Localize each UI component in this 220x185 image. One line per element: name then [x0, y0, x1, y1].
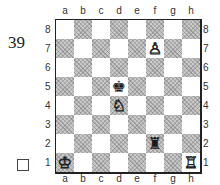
square-c7[interactable]: [92, 39, 110, 58]
chess-board: ♙♚♘♜♔♖: [55, 19, 202, 174]
square-f1[interactable]: [146, 153, 164, 172]
solved-checkbox[interactable]: [17, 159, 29, 171]
file-label-a: a: [56, 173, 74, 184]
square-d3[interactable]: [110, 115, 128, 134]
square-c4[interactable]: [92, 96, 110, 115]
square-f7[interactable]: ♙: [146, 39, 164, 58]
square-c6[interactable]: [92, 58, 110, 77]
rank-label-2: 2: [45, 134, 51, 153]
square-g3[interactable]: [164, 115, 182, 134]
rank-label-6: 6: [45, 58, 51, 77]
file-label-f: f: [146, 173, 164, 184]
file-label-g: g: [164, 173, 182, 184]
square-h6[interactable]: [182, 58, 200, 77]
file-label-h: h: [182, 173, 200, 184]
square-e8[interactable]: [128, 20, 146, 39]
square-h4[interactable]: [182, 96, 200, 115]
square-b8[interactable]: [74, 20, 92, 39]
square-h5[interactable]: [182, 77, 200, 96]
square-h1[interactable]: ♖: [182, 153, 200, 172]
square-d7[interactable]: [110, 39, 128, 58]
square-c5[interactable]: [92, 77, 110, 96]
rank-label-4: 4: [45, 96, 51, 115]
file-label-f: f: [146, 5, 164, 16]
square-d4[interactable]: ♘: [110, 96, 128, 115]
square-h7[interactable]: [182, 39, 200, 58]
square-f3[interactable]: [146, 115, 164, 134]
square-f8[interactable]: [146, 20, 164, 39]
rank-label-1: 1: [203, 153, 209, 172]
square-a3[interactable]: [56, 115, 74, 134]
rank-label-3: 3: [203, 115, 209, 134]
square-a1[interactable]: ♔: [56, 153, 74, 172]
square-a5[interactable]: [56, 77, 74, 96]
puzzle-number: 39: [8, 33, 25, 53]
file-label-a: a: [56, 5, 74, 16]
rank-label-1: 1: [45, 153, 51, 172]
rank-label-7: 7: [203, 39, 209, 58]
square-h2[interactable]: [182, 134, 200, 153]
square-a7[interactable]: [56, 39, 74, 58]
square-e4[interactable]: [128, 96, 146, 115]
white-knight-icon[interactable]: ♘: [112, 98, 126, 114]
white-rook-icon[interactable]: ♖: [184, 155, 198, 171]
rank-label-4: 4: [203, 96, 209, 115]
rank-label-3: 3: [45, 115, 51, 134]
file-label-d: d: [110, 5, 128, 16]
square-e5[interactable]: [128, 77, 146, 96]
square-f4[interactable]: [146, 96, 164, 115]
square-f6[interactable]: [146, 58, 164, 77]
square-f5[interactable]: [146, 77, 164, 96]
square-b7[interactable]: [74, 39, 92, 58]
square-a2[interactable]: [56, 134, 74, 153]
square-e7[interactable]: [128, 39, 146, 58]
rank-label-7: 7: [45, 39, 51, 58]
file-label-b: b: [74, 173, 92, 184]
square-g5[interactable]: [164, 77, 182, 96]
white-king-icon[interactable]: ♔: [58, 155, 72, 171]
black-rook-icon[interactable]: ♜: [148, 136, 162, 152]
square-g8[interactable]: [164, 20, 182, 39]
file-label-c: c: [92, 5, 110, 16]
square-h8[interactable]: [182, 20, 200, 39]
black-king-icon[interactable]: ♚: [112, 79, 126, 95]
square-g4[interactable]: [164, 96, 182, 115]
square-g2[interactable]: [164, 134, 182, 153]
square-c2[interactable]: [92, 134, 110, 153]
square-b5[interactable]: [74, 77, 92, 96]
square-g1[interactable]: [164, 153, 182, 172]
square-d6[interactable]: [110, 58, 128, 77]
square-e2[interactable]: [128, 134, 146, 153]
square-b2[interactable]: [74, 134, 92, 153]
square-g6[interactable]: [164, 58, 182, 77]
square-c1[interactable]: [92, 153, 110, 172]
square-d2[interactable]: [110, 134, 128, 153]
file-label-g: g: [164, 5, 182, 16]
file-label-b: b: [74, 5, 92, 16]
rank-label-5: 5: [45, 77, 51, 96]
square-e3[interactable]: [128, 115, 146, 134]
square-c3[interactable]: [92, 115, 110, 134]
square-b6[interactable]: [74, 58, 92, 77]
square-c8[interactable]: [92, 20, 110, 39]
square-a4[interactable]: [56, 96, 74, 115]
square-e6[interactable]: [128, 58, 146, 77]
square-b4[interactable]: [74, 96, 92, 115]
square-a6[interactable]: [56, 58, 74, 77]
square-e1[interactable]: [128, 153, 146, 172]
rank-label-6: 6: [203, 58, 209, 77]
square-b1[interactable]: [74, 153, 92, 172]
rank-label-2: 2: [203, 134, 209, 153]
square-h3[interactable]: [182, 115, 200, 134]
file-label-h: h: [182, 5, 200, 16]
square-g7[interactable]: [164, 39, 182, 58]
square-d5[interactable]: ♚: [110, 77, 128, 96]
file-label-e: e: [128, 5, 146, 16]
square-f2[interactable]: ♜: [146, 134, 164, 153]
square-d8[interactable]: [110, 20, 128, 39]
square-b3[interactable]: [74, 115, 92, 134]
white-pawn-icon[interactable]: ♙: [148, 41, 162, 57]
square-a8[interactable]: [56, 20, 74, 39]
file-label-d: d: [110, 173, 128, 184]
square-d1[interactable]: [110, 153, 128, 172]
